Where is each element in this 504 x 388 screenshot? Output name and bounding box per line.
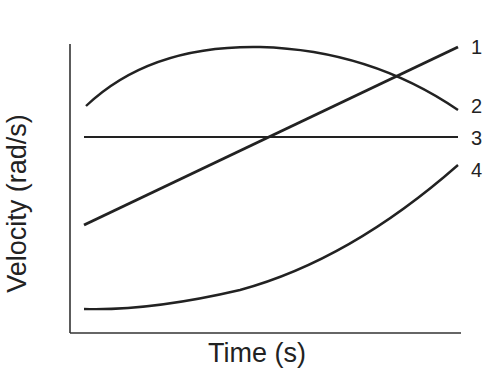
series-4-label: 4 — [471, 160, 482, 180]
series-1-label: 1 — [471, 37, 482, 57]
y-axis-label: Velocity (rad/s) — [6, 188, 46, 219]
series-2-curve — [86, 47, 458, 110]
series-4-curve — [84, 165, 458, 309]
series-3-label: 3 — [471, 128, 482, 148]
x-axis-label: Time (s) — [208, 338, 306, 369]
series-2-label: 2 — [471, 96, 482, 116]
chart-plot — [0, 0, 504, 388]
